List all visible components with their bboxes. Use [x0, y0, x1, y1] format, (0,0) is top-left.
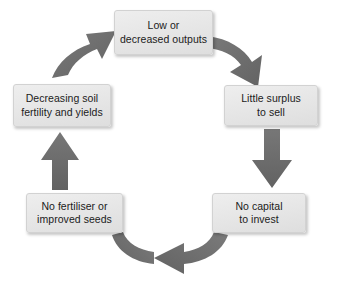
node-label: No fertiliser or improved seeds — [37, 200, 112, 227]
arrow-bottom-leftward-icon — [112, 232, 228, 274]
node-label: Low or decreased outputs — [120, 19, 207, 46]
node-label: No capital to invest — [235, 200, 282, 227]
node-label: Decreasing soil fertility and yields — [21, 92, 103, 119]
node-low-or-decreased-outputs: Low or decreased outputs — [114, 10, 213, 55]
cycle-diagram: Low or decreased outputs Little surplus … — [0, 0, 339, 283]
arrow-left-upward-icon — [41, 132, 79, 190]
node-label: Little surplus to sell — [241, 92, 301, 119]
arrow-top-to-right-icon — [206, 36, 262, 87]
node-no-capital-to-invest: No capital to invest — [212, 193, 306, 233]
arrow-right-to-lower-icon — [252, 129, 292, 188]
node-little-surplus-to-sell: Little surplus to sell — [224, 85, 318, 126]
arrow-upper-left-icon — [52, 31, 116, 78]
node-decreasing-soil-fertility-and-yields: Decreasing soil fertility and yields — [13, 84, 111, 127]
node-no-fertiliser-or-improved-seeds: No fertiliser or improved seeds — [26, 193, 123, 233]
